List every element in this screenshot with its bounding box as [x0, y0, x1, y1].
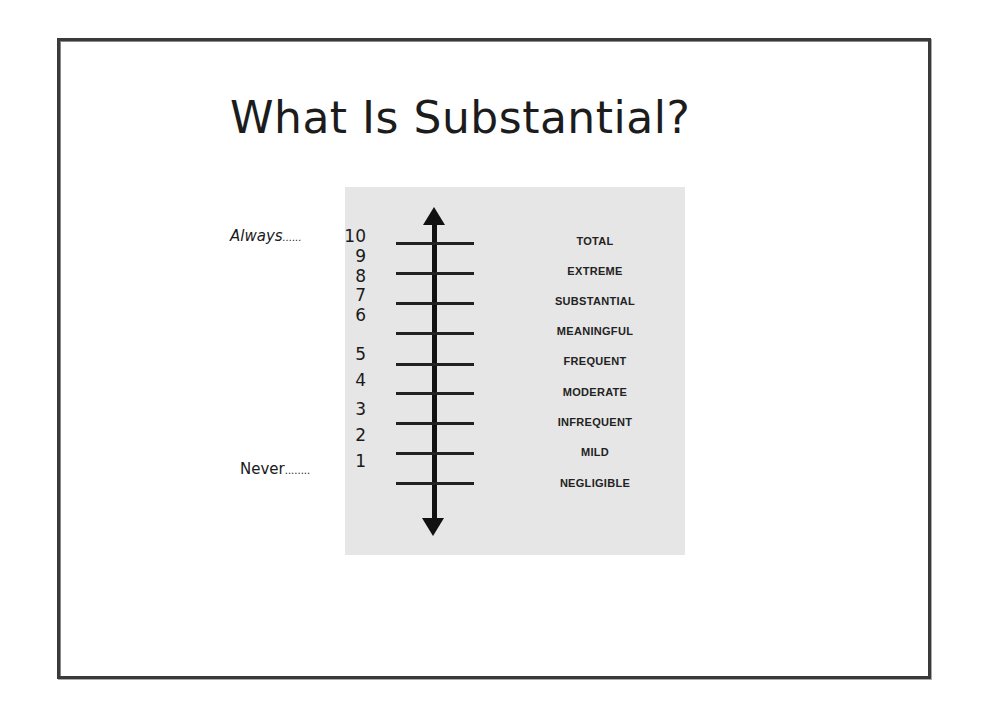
level-label-infrequent: INFREQUENT [530, 416, 660, 428]
level-label-frequent: FREQUENT [530, 355, 660, 367]
scale-number-7: 7 [336, 285, 366, 305]
never-dots: ........ [285, 465, 310, 476]
scale-number-1: 1 [336, 451, 366, 471]
scale-number-6: 6 [336, 305, 366, 325]
scale-number-10: 10 [336, 226, 366, 246]
scale-tick [396, 332, 474, 335]
always-dots: ...... [283, 232, 302, 243]
scale-tick [396, 242, 474, 245]
scale-number-5: 5 [336, 344, 366, 364]
scale-number-3: 3 [336, 399, 366, 419]
scale-axis-line [432, 222, 437, 524]
never-word: Never [240, 460, 285, 478]
always-anchor-label: Always...... [230, 227, 302, 245]
scale-number-9: 9 [336, 246, 366, 266]
scale-tick [396, 302, 474, 305]
level-label-extreme: EXTREME [530, 265, 660, 277]
scale-number-2: 2 [336, 425, 366, 445]
slide-title: What Is Substantial? [230, 92, 690, 143]
scale-tick [396, 452, 474, 455]
scale-tick [396, 363, 474, 366]
scale-tick [396, 422, 474, 425]
level-label-negligible: NEGLIGIBLE [530, 477, 660, 489]
always-word: Always [230, 227, 283, 245]
scale-tick [396, 272, 474, 275]
arrow-down-icon [422, 518, 444, 536]
level-label-total: TOTAL [530, 235, 660, 247]
level-label-substantial: SUBSTANTIAL [530, 295, 660, 307]
level-label-moderate: MODERATE [530, 386, 660, 398]
scale-tick [396, 482, 474, 485]
never-anchor-label: Never........ [240, 460, 310, 478]
level-label-mild: MILD [530, 446, 660, 458]
level-label-meaningful: MEANINGFUL [530, 325, 660, 337]
scale-tick [396, 392, 474, 395]
scale-number-8: 8 [336, 266, 366, 286]
scale-number-4: 4 [336, 370, 366, 390]
